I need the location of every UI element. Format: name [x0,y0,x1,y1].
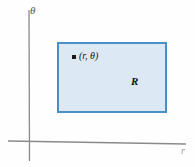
horizontal-axis-line [8,141,186,144]
r-axis-label: r [181,146,185,156]
region-rectangle [57,42,167,113]
sample-point-dot [72,55,76,59]
region-label: R [131,76,138,87]
theta-axis-label: θ [30,5,35,16]
vertical-axis-line [29,10,30,161]
sample-point-label: (r, θ) [79,51,98,61]
polar-rectangle-figure: θ r (r, θ) R [0,0,195,167]
